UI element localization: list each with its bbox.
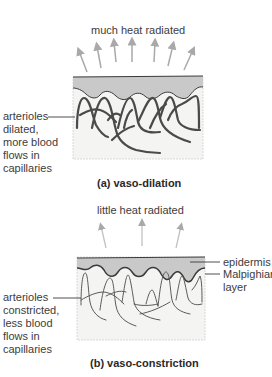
arterioles-label-b: arterioles constricted, less blood flows…: [3, 291, 59, 356]
heat-label-b: little heat radiated: [97, 204, 184, 217]
skin-section-a: [48, 76, 203, 159]
heat-label-a: much heat radiated: [91, 24, 185, 37]
skin-section-b: [53, 257, 220, 340]
caption-a: (a) vaso-dilation: [97, 177, 181, 189]
malpighian-layer-label: Malpighian layer: [223, 268, 272, 294]
heat-arrows-a: [79, 41, 193, 72]
heat-arrows-b: [101, 222, 181, 248]
caption-b: (b) vaso-constriction: [90, 357, 199, 369]
arterioles-label-a: arterioles dilated, more blood flows in …: [3, 110, 58, 175]
